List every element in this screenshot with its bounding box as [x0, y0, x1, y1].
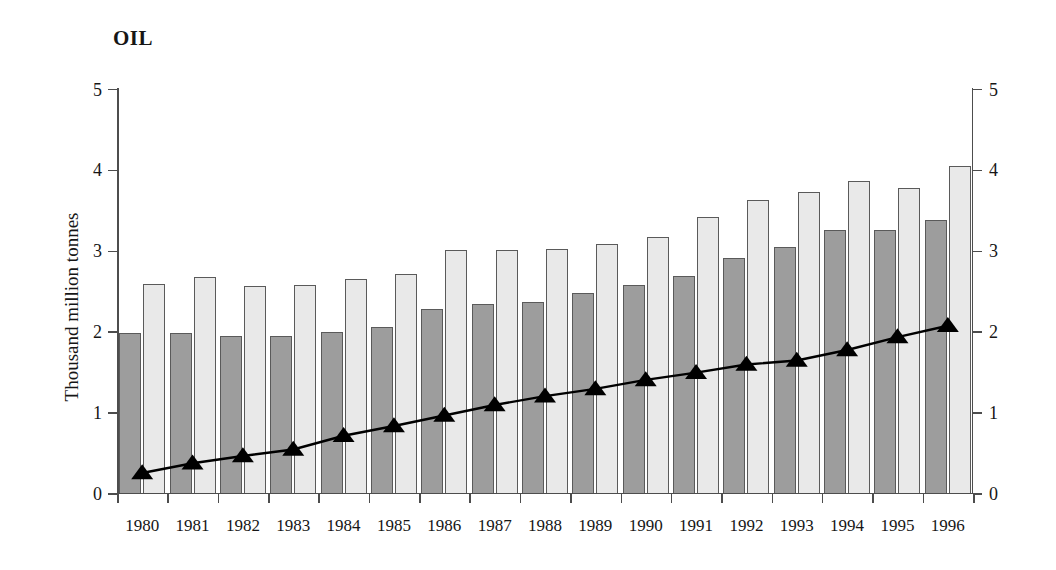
- bar: [874, 230, 896, 492]
- x-tick-mark: [872, 494, 874, 503]
- bar: [673, 276, 695, 493]
- left-y-tick-label: 1: [93, 404, 102, 422]
- right-y-tick-mark: [973, 412, 982, 414]
- left-y-tick-mark: [108, 412, 117, 414]
- x-tick-label: 1990: [629, 516, 663, 536]
- x-tick-label: 1995: [880, 516, 914, 536]
- bar: [244, 286, 266, 492]
- right-y-tick-mark: [973, 331, 982, 333]
- x-tick-label: 1987: [478, 516, 512, 536]
- bar: [194, 277, 216, 492]
- right-y-tick-label: 4: [989, 161, 998, 179]
- plot-area: 012345 012345 19801981198219831984198519…: [117, 88, 973, 494]
- left-y-tick-mark: [108, 331, 117, 333]
- bar: [472, 304, 494, 492]
- y-axis-title: Thousand million tonnes: [61, 97, 83, 517]
- left-y-tick-label: 2: [93, 323, 102, 341]
- x-tick-label: 1996: [931, 516, 965, 536]
- left-y-tick-label: 4: [93, 161, 102, 179]
- bar: [774, 247, 796, 492]
- bar: [421, 309, 443, 493]
- bar: [143, 284, 165, 493]
- right-y-tick-label: 3: [989, 242, 998, 260]
- right-y-tick-label: 1: [989, 404, 998, 422]
- x-tick-mark: [721, 494, 723, 503]
- bar: [445, 250, 467, 493]
- x-tick-mark: [621, 494, 623, 503]
- right-y-tick-mark: [973, 89, 982, 91]
- left-y-tick-mark: [108, 89, 117, 91]
- bar: [522, 302, 544, 492]
- x-tick-mark: [772, 494, 774, 503]
- x-tick-mark: [570, 494, 572, 503]
- right-y-tick-label: 5: [989, 81, 998, 99]
- bar: [345, 279, 367, 493]
- x-tick-mark: [822, 494, 824, 503]
- x-tick-label: 1989: [578, 516, 612, 536]
- x-tick-mark: [117, 494, 119, 503]
- x-tick-mark: [520, 494, 522, 503]
- x-tick-mark: [167, 494, 169, 503]
- x-tick-label: 1991: [679, 516, 713, 536]
- bar: [747, 200, 769, 492]
- x-tick-mark: [973, 494, 975, 503]
- left-y-tick-mark: [108, 170, 117, 172]
- bar: [949, 166, 971, 492]
- bar: [572, 293, 594, 493]
- x-tick-label: 1986: [427, 516, 461, 536]
- bar: [321, 332, 343, 492]
- bar: [596, 244, 618, 492]
- right-y-tick-label: 0: [989, 485, 998, 503]
- page-title: OIL: [113, 26, 153, 51]
- x-tick-mark: [923, 494, 925, 503]
- chart-figure: OIL Thousand million tonnes 012345 01234…: [0, 0, 1056, 570]
- right-y-tick-mark: [973, 170, 982, 172]
- bar: [294, 285, 316, 493]
- x-tick-mark: [419, 494, 421, 503]
- x-tick-label: 1988: [528, 516, 562, 536]
- bar: [925, 220, 947, 493]
- x-tick-mark: [218, 494, 220, 503]
- bar: [697, 217, 719, 492]
- x-tick-mark: [369, 494, 371, 503]
- right-y-tick-mark: [973, 251, 982, 253]
- left-y-tick-mark: [108, 493, 117, 495]
- bar: [723, 258, 745, 493]
- left-y-tick-label: 0: [93, 485, 102, 503]
- x-tick-label: 1982: [226, 516, 260, 536]
- x-tick-label: 1994: [830, 516, 864, 536]
- x-tick-label: 1985: [377, 516, 411, 536]
- x-tick-mark: [268, 494, 270, 503]
- left-y-tick-label: 5: [93, 81, 102, 99]
- bottom-axis-line: [117, 493, 973, 495]
- bar: [647, 237, 669, 493]
- bar: [496, 250, 518, 493]
- bar: [170, 333, 192, 492]
- bar: [220, 336, 242, 492]
- x-tick-label: 1980: [125, 516, 159, 536]
- x-tick-label: 1992: [729, 516, 763, 536]
- x-tick-mark: [318, 494, 320, 503]
- bar: [270, 336, 292, 493]
- right-axis-line: [972, 88, 974, 494]
- right-y-tick-label: 2: [989, 323, 998, 341]
- bar: [898, 188, 920, 493]
- left-y-tick-label: 3: [93, 242, 102, 260]
- x-tick-label: 1993: [780, 516, 814, 536]
- left-y-tick-mark: [108, 251, 117, 253]
- x-tick-mark: [469, 494, 471, 503]
- x-tick-label: 1983: [276, 516, 310, 536]
- bar: [119, 333, 141, 492]
- x-tick-label: 1984: [327, 516, 361, 536]
- bar: [798, 192, 820, 493]
- bar: [546, 249, 568, 493]
- bar: [824, 230, 846, 492]
- bar: [848, 181, 870, 492]
- x-tick-label: 1981: [176, 516, 210, 536]
- x-tick-mark: [671, 494, 673, 503]
- bar: [371, 327, 393, 492]
- bar: [623, 285, 645, 492]
- bar: [395, 274, 417, 492]
